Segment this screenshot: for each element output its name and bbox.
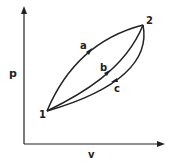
path-c-label: c bbox=[114, 83, 120, 94]
arrow-c-icon bbox=[111, 78, 118, 82]
path-a-label: a bbox=[80, 40, 87, 51]
path-c bbox=[47, 25, 144, 111]
state-2-label: 2 bbox=[146, 15, 153, 26]
y-axis bbox=[21, 6, 27, 144]
state-1-label: 1 bbox=[39, 109, 46, 120]
path-b-label: b bbox=[100, 62, 107, 73]
path-a bbox=[47, 25, 143, 111]
pv-diagram: p v 1 2 a b c bbox=[0, 0, 176, 165]
path-b bbox=[47, 25, 143, 111]
x-axis-label: v bbox=[88, 149, 95, 160]
y-axis-label: p bbox=[9, 67, 17, 80]
x-axis bbox=[24, 141, 165, 147]
